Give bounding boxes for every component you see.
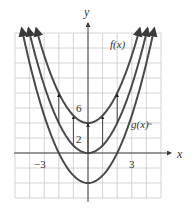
x-axis-label: x xyxy=(176,147,183,161)
tick-label-2: 2 xyxy=(76,133,82,145)
y-axis-label: y xyxy=(83,5,90,19)
parabola-graph: x y −3 3 6 2 f(x) g(x) xyxy=(0,0,195,209)
tick-label-6: 6 xyxy=(76,102,82,114)
f-curve-label: f(x) xyxy=(110,38,126,51)
tick-label-neg3: −3 xyxy=(34,158,46,170)
g-curve-label: g(x) xyxy=(131,118,149,131)
tick-label-3: 3 xyxy=(129,158,135,170)
